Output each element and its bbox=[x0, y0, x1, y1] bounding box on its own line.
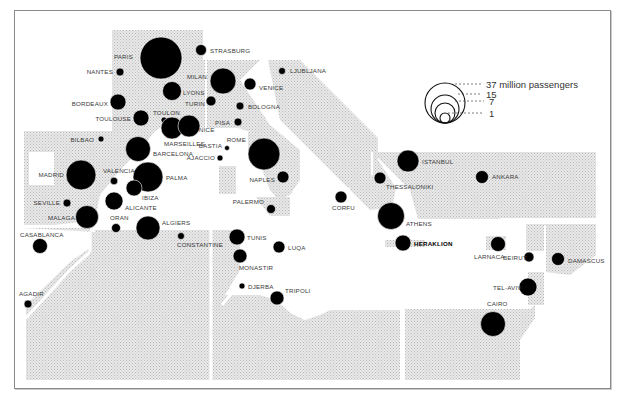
city-marker-naples bbox=[277, 171, 289, 183]
city-marker-athens bbox=[378, 203, 405, 230]
city-label-naples: NAPLES bbox=[249, 176, 275, 183]
city-marker-luqa bbox=[273, 241, 285, 253]
city-marker-venice bbox=[244, 78, 256, 90]
city-label-madrid: MADRID bbox=[38, 171, 64, 178]
city-label-malaga: MALAGA bbox=[48, 214, 76, 221]
city-marker-nantes bbox=[116, 68, 124, 76]
legend-circle-1 bbox=[440, 113, 450, 123]
city-label-oran: ORAN bbox=[110, 214, 129, 221]
city-marker-ankara bbox=[476, 171, 489, 184]
city-marker-nice bbox=[178, 115, 200, 137]
city-label-pisa: PISA bbox=[215, 119, 231, 126]
city-label-paris: PARIS bbox=[114, 53, 133, 60]
land-africa-west bbox=[24, 228, 210, 380]
city-marker-casablanca bbox=[33, 239, 48, 254]
land-sardinia bbox=[219, 166, 236, 194]
city-label-ankara: ANKARA bbox=[492, 173, 519, 180]
city-marker-constantine bbox=[178, 233, 185, 240]
city-label-alicante: ALICANTE bbox=[125, 204, 157, 211]
city-marker-toulouse bbox=[133, 110, 149, 126]
city-marker-rome bbox=[248, 138, 280, 170]
city-marker-corfu bbox=[335, 191, 347, 203]
city-marker-bordeaux bbox=[110, 94, 126, 110]
city-marker-strasburg bbox=[196, 45, 207, 56]
land-gap-iberia bbox=[29, 152, 54, 185]
city-marker-palermo bbox=[267, 205, 276, 214]
legend-label-37: 37 million passengers bbox=[486, 79, 578, 90]
city-marker-lyons bbox=[163, 82, 182, 101]
city-marker-thessaloniki bbox=[374, 172, 386, 184]
city-label-corfu: CORFU bbox=[332, 204, 355, 211]
city-marker-alicante bbox=[105, 192, 123, 210]
city-label-seville: SEVILLE bbox=[33, 199, 60, 206]
city-label-algiers: ALGIERS bbox=[162, 219, 190, 226]
city-marker-djerba bbox=[239, 283, 245, 289]
city-label-monastir: MONASTIR bbox=[239, 264, 274, 271]
city-marker-istanbul bbox=[397, 150, 419, 172]
city-label-barcelona: BARCELONA bbox=[153, 150, 194, 157]
city-label-turin: TURIN bbox=[185, 100, 205, 107]
city-marker-tripoli bbox=[270, 291, 284, 305]
city-label-valencia: VALENCIA bbox=[103, 167, 135, 174]
city-marker-oran bbox=[112, 224, 121, 233]
city-label-athens: ATHENS bbox=[406, 220, 432, 227]
city-marker-cairo bbox=[481, 312, 506, 337]
city-label-damascus: DAMASCUS bbox=[568, 257, 605, 264]
city-label-istanbul: ISTANBUL bbox=[422, 158, 454, 165]
city-marker-barcelona bbox=[126, 137, 151, 162]
city-label-milan: MILAN bbox=[187, 73, 207, 80]
city-marker-milan bbox=[210, 68, 236, 94]
city-label-nice: NICE bbox=[199, 126, 215, 133]
legend-label-1: 1 bbox=[489, 108, 494, 119]
legend: 37 million passengers 15 7 1 bbox=[425, 79, 578, 123]
city-label-palma: PALMA bbox=[166, 174, 188, 181]
city-label-ljubljana: LJUBLJANA bbox=[290, 67, 327, 74]
city-marker-bilbao bbox=[98, 136, 104, 142]
city-label-djerba: DJERBA bbox=[248, 283, 274, 290]
legend-circle-15 bbox=[431, 95, 459, 123]
city-marker-bastia bbox=[225, 146, 230, 151]
land-africa-egypt bbox=[405, 305, 535, 380]
passenger-map: PARISSTRASBURGNANTESMILANVENICELJUBLJANA… bbox=[0, 0, 620, 407]
city-label-bologna: BOLOGNA bbox=[248, 103, 281, 110]
city-label-tel-aviv: TEL-AVIV bbox=[493, 284, 522, 291]
city-marker-bologna bbox=[236, 102, 244, 110]
city-marker-ljubljana bbox=[279, 68, 286, 75]
city-label-venice: VENICE bbox=[259, 84, 283, 91]
city-label-luqa: LUQA bbox=[288, 244, 306, 251]
city-marker-larnaca bbox=[491, 237, 506, 252]
city-label-strasburg: STRASBURG bbox=[210, 47, 250, 54]
city-label-cairo: CAIRO bbox=[487, 300, 508, 307]
city-label-beirut: BEIRUT bbox=[503, 254, 527, 261]
city-marker-agadir bbox=[24, 300, 32, 308]
city-marker-ibiza bbox=[126, 180, 142, 196]
city-label-agadir: AGADIR bbox=[19, 290, 44, 297]
city-marker-pisa bbox=[234, 118, 242, 126]
city-marker-monastir bbox=[233, 249, 247, 263]
city-label-bilbao: BILBAO bbox=[70, 136, 94, 143]
city-marker-madrid bbox=[66, 160, 96, 190]
city-label-tripoli: TRIPOLI bbox=[285, 287, 311, 294]
city-label-lyons: LYONS bbox=[183, 89, 205, 96]
city-marker-seville bbox=[63, 199, 71, 207]
city-marker-malaga bbox=[76, 206, 99, 229]
city-marker-heraklion bbox=[395, 235, 411, 251]
city-marker-tunis bbox=[229, 229, 245, 245]
city-label-toulon: TOULON bbox=[153, 109, 180, 116]
city-marker-turin bbox=[206, 96, 216, 106]
city-label-tunis: TUNIS bbox=[247, 234, 267, 241]
city-label-ibiza: IBIZA bbox=[142, 194, 159, 201]
city-label-constantine: CONSTANTINE bbox=[177, 241, 223, 248]
land-levant bbox=[526, 224, 596, 275]
city-label-casablanca: CASABLANCA bbox=[20, 231, 64, 238]
city-marker-paris bbox=[140, 37, 182, 79]
city-label-larnaca: LARNACA bbox=[474, 253, 505, 260]
city-marker-tel-aviv bbox=[519, 278, 537, 296]
city-label-toulouse: TOULOUSE bbox=[95, 115, 131, 122]
city-label-thessaloniki: THESSALONIKI bbox=[386, 183, 434, 190]
city-marker-ajaccio bbox=[217, 155, 223, 161]
city-label-palermo: PALERMO bbox=[233, 198, 264, 205]
city-marker-damascus bbox=[552, 253, 565, 266]
city-label-bastia: BASTIA bbox=[199, 142, 223, 149]
city-marker-algiers bbox=[136, 216, 160, 240]
